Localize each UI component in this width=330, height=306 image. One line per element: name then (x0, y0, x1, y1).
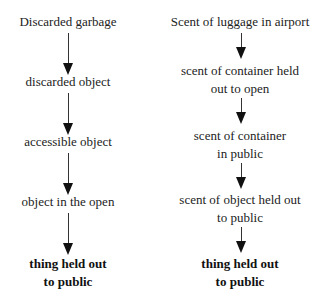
right-node-object-held-out: scent of object held out to public (179, 191, 300, 227)
down-arrow-icon (63, 33, 73, 75)
down-arrow-icon (236, 98, 246, 124)
down-arrow-icon (236, 227, 246, 253)
right-node-container-public: scent of container in public (194, 127, 286, 163)
node-label-line2: to public (29, 273, 106, 291)
node-label-line2: to public (179, 209, 300, 227)
node-label-line1: thing held out (201, 255, 278, 273)
node-label-line1: thing held out (29, 255, 106, 273)
node-label-line2: in public (194, 145, 286, 163)
left-node-discarded-object: discarded object (26, 73, 111, 91)
node-label: Scent of luggage in airport (171, 14, 310, 29)
down-arrow-icon (63, 153, 73, 195)
node-label: Discarded garbage (19, 14, 116, 29)
right-node-container-held-out: scent of container held out to open (181, 62, 299, 98)
left-node-object-in-open: object in the open (22, 193, 115, 211)
node-label-line2: to public (201, 273, 278, 291)
node-label-line2: out to open (181, 80, 299, 98)
right-node-thing-held-out: thing held out to public (201, 255, 278, 291)
node-label: accessible object (24, 134, 112, 149)
node-label: object in the open (22, 194, 115, 209)
left-node-thing-held-out: thing held out to public (29, 255, 106, 291)
right-node-scent-luggage: Scent of luggage in airport (171, 13, 310, 31)
node-label-line1: scent of container (194, 127, 286, 145)
node-label-line1: scent of container held (181, 62, 299, 80)
node-label-line1: scent of object held out (179, 191, 300, 209)
down-arrow-icon (236, 33, 246, 59)
node-label: discarded object (26, 74, 111, 89)
left-node-discarded-garbage: Discarded garbage (19, 13, 116, 31)
down-arrow-icon (236, 163, 246, 189)
down-arrow-icon (63, 213, 73, 255)
down-arrow-icon (63, 93, 73, 135)
left-node-accessible-object: accessible object (24, 133, 112, 151)
